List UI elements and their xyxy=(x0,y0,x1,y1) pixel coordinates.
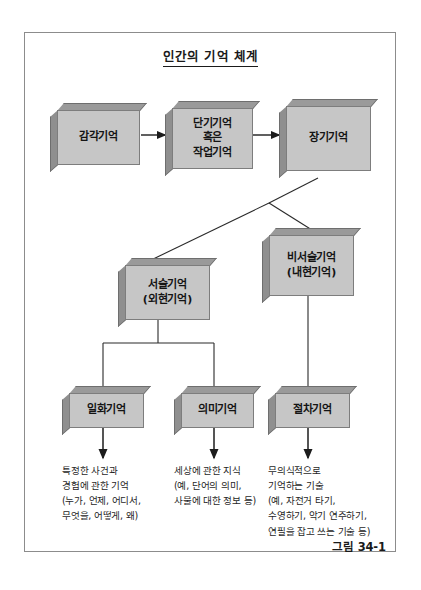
description-procedural: 무의식적으로 기억하는 기술 (예, 자전거 타기, 수영하기, 악기 연주하기… xyxy=(268,463,370,539)
box-episodic-memory[interactable]: 일화기억 xyxy=(62,386,144,428)
box-declarative-memory[interactable]: 서술기억 (외현기억) xyxy=(118,258,210,320)
box-long-term-memory[interactable]: 장기기억 xyxy=(279,99,371,171)
semantic-desc-line-2: (예, 단어의 의미, xyxy=(174,478,256,493)
stm-line-1: 단기기억 xyxy=(193,117,233,132)
procedural-desc-line-3: (예, 자전거 타기, xyxy=(268,493,370,508)
semantic-desc-line-1: 세상에 관한 지식 xyxy=(174,463,256,478)
box-semantic-memory[interactable]: 의미기억 xyxy=(174,386,254,428)
box-episodic-memory-label: 일화기억 xyxy=(69,393,144,428)
episodic-desc-line-4: 무엇을, 어떻게, 왜) xyxy=(62,508,141,523)
episodic-desc-line-3: (누가, 언제, 어디서, xyxy=(62,493,141,508)
stm-line-3: 작업기억 xyxy=(193,146,233,161)
box-sensory-memory[interactable]: 감각기억 xyxy=(50,103,140,165)
box-short-term-memory-label: 단기기억 혹은 작업기억 xyxy=(172,108,253,169)
stm-line-2: 혹은 xyxy=(193,131,233,146)
episodic-desc-line-2: 경험에 관한 기억 xyxy=(62,478,141,493)
declarative-line-2: (외현기억) xyxy=(143,293,192,308)
figure-page: 인간의 기억 체계 감각기억 xyxy=(0,0,421,590)
procedural-desc-line-1: 무의식적으로 xyxy=(268,463,370,478)
box-long-term-memory-label: 장기기억 xyxy=(286,106,371,171)
description-semantic: 세상에 관한 지식 (예, 단어의 의미, 사물에 대한 정보 등) xyxy=(174,463,256,508)
box-short-term-memory[interactable]: 단기기억 혹은 작업기억 xyxy=(165,101,253,169)
box-semantic-memory-label: 의미기억 xyxy=(181,393,254,428)
figure-title: 인간의 기억 체계 xyxy=(0,46,421,65)
description-episodic: 특정한 사건과 경험에 관한 기억 (누가, 언제, 어디서, 무엇을, 어떻게… xyxy=(62,463,141,524)
box-declarative-memory-label: 서술기억 (외현기억) xyxy=(125,265,210,320)
declarative-line-1: 서술기억 xyxy=(143,278,192,293)
figure-caption: 그림 34-1 xyxy=(326,538,392,554)
procedural-desc-line-2: 기억하는 기술 xyxy=(268,478,370,493)
box-sensory-memory-label: 감각기억 xyxy=(57,110,140,165)
box-procedural-memory-label: 절차기억 xyxy=(275,393,350,428)
nondeclarative-line-2: (내현기억) xyxy=(287,266,337,281)
box-nondeclarative-memory[interactable]: 비서술기억 (내현기억) xyxy=(262,228,354,296)
figure-title-text: 인간의 기억 체계 xyxy=(163,49,258,67)
semantic-desc-line-3: 사물에 대한 정보 등) xyxy=(174,493,256,508)
nondeclarative-line-1: 비서술기억 xyxy=(287,251,337,266)
box-nondeclarative-memory-label: 비서술기억 (내현기억) xyxy=(269,235,354,296)
procedural-desc-line-5: 연필을 잡고 쓰는 기술 등) xyxy=(268,524,370,539)
procedural-desc-line-4: 수영하기, 악기 연주하기, xyxy=(268,508,370,523)
box-procedural-memory[interactable]: 절차기억 xyxy=(268,386,350,428)
episodic-desc-line-1: 특정한 사건과 xyxy=(62,463,141,478)
